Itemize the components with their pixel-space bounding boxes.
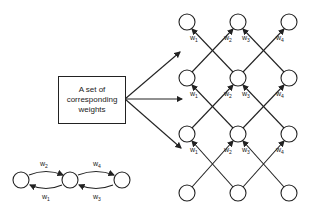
svg-text:w4: w4 bbox=[92, 160, 101, 169]
grid-weight-labels: w1 w2 w3 w4 w1 w2 w3 w4 w1 w2 w3 w4 bbox=[189, 34, 284, 155]
svg-text:w2: w2 bbox=[223, 90, 232, 99]
svg-text:w1: w1 bbox=[41, 193, 50, 202]
chain-weight-labels: w2 w4 w1 w3 bbox=[39, 160, 101, 202]
svg-text:w1: w1 bbox=[189, 90, 198, 99]
weight-sharing-diagram: w1 w2 w3 w4 w1 w2 w3 w4 w1 w2 w3 w4 w2 w… bbox=[0, 0, 315, 213]
svg-text:w2: w2 bbox=[39, 160, 48, 169]
svg-text:w1: w1 bbox=[189, 34, 198, 43]
weights-box-label: A set of corresponding weights bbox=[59, 85, 125, 115]
grid-edges bbox=[192, 29, 284, 187]
svg-text:w4: w4 bbox=[275, 146, 284, 155]
chain-diagram bbox=[13, 172, 130, 189]
weights-box: A set of corresponding weights bbox=[58, 76, 126, 124]
svg-text:w1: w1 bbox=[189, 146, 198, 155]
svg-text:w2: w2 bbox=[223, 34, 232, 43]
svg-text:w4: w4 bbox=[275, 90, 284, 99]
svg-text:w3: w3 bbox=[92, 193, 101, 202]
box-arrows bbox=[125, 52, 182, 148]
svg-text:w4: w4 bbox=[275, 34, 284, 43]
svg-text:w2: w2 bbox=[223, 146, 232, 155]
